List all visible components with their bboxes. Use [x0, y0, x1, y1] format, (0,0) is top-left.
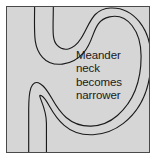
- annotation-line-4: narrower: [76, 89, 138, 102]
- annotation-text: Meander neck becomes narrower: [76, 49, 138, 103]
- meander-figure: Meander neck becomes narrower: [0, 0, 158, 162]
- annotation-line-2: neck: [76, 62, 138, 75]
- diagram-panel: Meander neck becomes narrower: [6, 6, 150, 153]
- annotation-line-1: Meander: [76, 49, 138, 62]
- annotation-line-3: becomes: [76, 76, 138, 89]
